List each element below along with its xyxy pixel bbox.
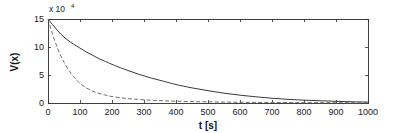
y-tick-label: 0 — [39, 98, 44, 108]
x-tick-label: 300 — [136, 107, 151, 117]
x-axis-label: t [s] — [199, 120, 217, 131]
x-tick-label: 1000 — [358, 107, 378, 117]
y-axis-multiplier: x 10 — [49, 4, 65, 14]
x-tick-label: 400 — [168, 107, 183, 117]
x-tick-label: 500 — [200, 107, 215, 117]
x-tick-label: 700 — [264, 107, 279, 117]
y-tick-label: 5 — [39, 70, 44, 80]
chart-plot: 01002003004005006007008009001000051015 t… — [0, 0, 400, 133]
x-tick-label: 600 — [232, 107, 247, 117]
x-tick-label: 0 — [45, 107, 50, 117]
x-tick-label: 900 — [328, 107, 343, 117]
x-tick-label: 200 — [104, 107, 119, 117]
figure-container: 01002003004005006007008009001000051015 t… — [0, 0, 400, 133]
y-axis-label: V(x) — [9, 53, 20, 72]
y-tick-label: 15 — [34, 14, 44, 24]
x-tick-label: 100 — [72, 107, 87, 117]
x-tick-label: 800 — [296, 107, 311, 117]
y-tick-label: 10 — [34, 42, 44, 52]
